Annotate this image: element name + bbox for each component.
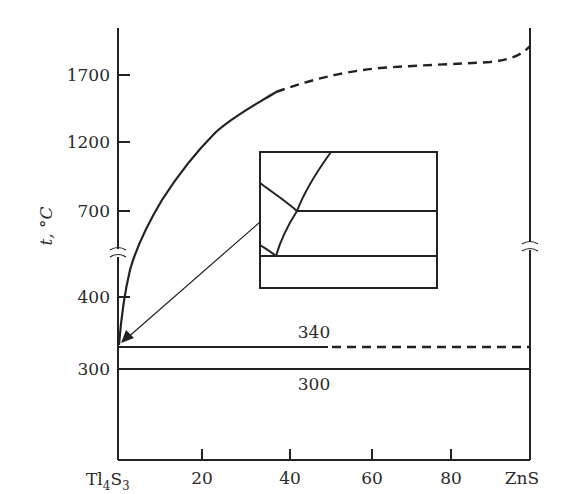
x-tick-label-40: 40	[279, 468, 301, 488]
inset-branch-lower	[260, 245, 276, 256]
phase-diagram: 1700 1200 700 400 300 t, °C Tl4S3 20 40 …	[0, 0, 570, 494]
inset-curve-middle	[276, 211, 297, 256]
y-axis-title: t, °C	[36, 206, 56, 245]
label-340: 340	[298, 322, 330, 342]
y-tick-label-300: 300	[78, 359, 110, 379]
inset-branch-upper	[260, 183, 297, 211]
axis-break-left-bottom	[110, 255, 126, 258]
liquidus-curve-dashed	[276, 46, 530, 92]
liquidus-curve-solid	[119, 92, 276, 345]
x-tick-label-zns: ZnS	[505, 468, 539, 488]
x-tick-label-60: 60	[361, 468, 383, 488]
arrowhead-icon	[121, 330, 134, 343]
inset-pointer-arrow	[126, 222, 260, 339]
x-tick-label-80: 80	[440, 468, 462, 488]
inset-frame	[260, 152, 437, 288]
y-tick-label-400: 400	[78, 287, 110, 307]
axis-break-right-top	[522, 242, 538, 245]
y-tick-label-1200: 1200	[67, 132, 110, 152]
inset-enlargement	[260, 152, 437, 288]
inset-curve-top	[297, 152, 331, 211]
y-tick-label-1700: 1700	[67, 65, 110, 85]
x-tick-label-20: 20	[191, 468, 213, 488]
x-tick-label-tl4s3: Tl4S3	[86, 469, 130, 493]
y-tick-label-700: 700	[78, 201, 110, 221]
label-300: 300	[298, 374, 330, 394]
